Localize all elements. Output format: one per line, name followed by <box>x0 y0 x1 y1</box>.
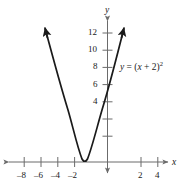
xtick-label--8: –8 <box>17 171 26 180</box>
ytick-label-12: 12 <box>88 28 97 37</box>
ytick-label-4: 4 <box>93 97 98 106</box>
equation-exponent: 2 <box>160 60 163 67</box>
equation-lhs: y <box>120 62 124 72</box>
ytick-label-8: 8 <box>93 62 98 71</box>
xtick-label-4: 4 <box>155 171 160 180</box>
x-axis-label: x <box>172 158 176 168</box>
ytick-label-6: 6 <box>93 80 98 89</box>
xtick-label--2: –2 <box>68 171 77 180</box>
xtick-label--4: –4 <box>51 171 60 180</box>
ytick-label-10: 10 <box>88 45 97 54</box>
parabola-curve <box>45 28 124 161</box>
xtick-label-2: 2 <box>138 171 143 180</box>
y-axis <box>103 21 113 173</box>
equation-annotation: y = (x + 2)2 <box>120 63 163 73</box>
equation-variable: x <box>138 62 142 72</box>
graph-figure: –8 –6 –4 –2 2 4 12 10 8 6 4 y x y = (x +… <box>0 0 180 183</box>
xtick-label--6: –6 <box>34 171 43 180</box>
equation-plus: + <box>144 62 149 72</box>
y-axis-label: y <box>105 6 109 16</box>
equation-equals: = <box>127 62 132 72</box>
